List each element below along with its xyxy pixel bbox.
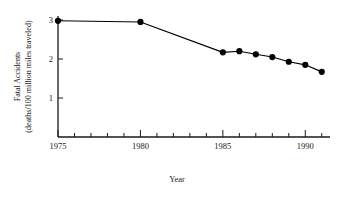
data-point (302, 62, 308, 68)
chart-container: 1975198019851990 123 Year Fatal Accident… (0, 0, 347, 198)
x-tick-label: 1985 (214, 141, 231, 151)
data-point (137, 19, 143, 25)
data-point (220, 49, 226, 55)
data-point (253, 51, 259, 57)
y-axis-tick-labels: 123 (49, 15, 53, 103)
y-tick-label: 2 (49, 54, 53, 64)
data-point (319, 69, 325, 75)
y-tick-label: 3 (49, 15, 53, 25)
x-axis-title: Year (169, 174, 185, 184)
x-tick-label: 1990 (297, 141, 314, 151)
data-point (286, 59, 292, 65)
y-axis-ticks (58, 20, 63, 98)
x-axis-ticks (58, 130, 322, 137)
x-tick-label: 1980 (132, 141, 149, 151)
y-axis-title-line1: Fatal Accidents (13, 52, 22, 102)
data-point (55, 18, 61, 24)
line-chart: 1975198019851990 123 Year Fatal Accident… (0, 0, 347, 198)
data-series-line (58, 21, 322, 72)
data-point-markers (55, 18, 325, 75)
x-tick-label: 1975 (50, 141, 67, 151)
series-fatal-accidents (58, 21, 322, 72)
data-point (236, 48, 242, 54)
axes (58, 16, 330, 137)
x-axis-tick-labels: 1975198019851990 (50, 141, 314, 151)
data-point (269, 54, 275, 60)
y-tick-label: 1 (49, 93, 53, 103)
y-axis-title-line2: (deaths/100 million miles traveled) (24, 20, 33, 133)
